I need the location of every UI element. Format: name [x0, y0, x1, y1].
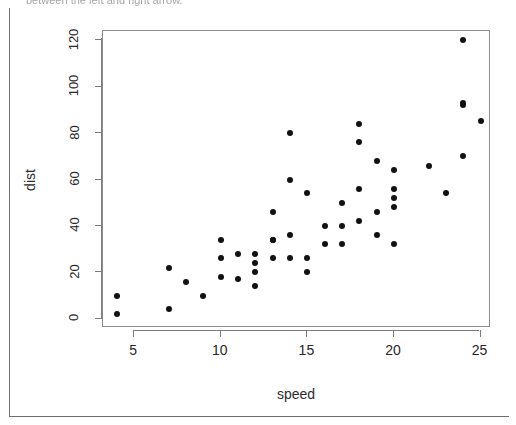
data-point: [391, 167, 397, 173]
x-axis-tick: [306, 330, 307, 337]
data-point: [114, 311, 120, 317]
data-point: [235, 251, 241, 257]
data-point: [287, 177, 293, 183]
data-point: [270, 237, 276, 243]
y-axis-tick-label: 80: [56, 125, 92, 139]
data-point: [478, 118, 484, 124]
data-point: [166, 265, 172, 271]
y-axis-tick: [95, 225, 101, 226]
x-axis-tick: [393, 330, 394, 337]
data-point: [166, 306, 172, 312]
data-point: [270, 255, 276, 261]
data-point: [218, 237, 224, 243]
y-axis-title-label: dist: [22, 169, 38, 191]
y-axis-tick-label: 0: [56, 311, 92, 325]
y-axis-tick: [95, 271, 101, 272]
x-axis-tick: [133, 330, 134, 337]
y-axis-tick: [95, 132, 101, 133]
data-point: [183, 279, 189, 285]
y-axis-tick-label: 60: [56, 172, 92, 186]
y-axis-tick-label: 20: [56, 264, 92, 278]
data-point: [252, 269, 258, 275]
y-axis-tick-label: 120: [56, 32, 92, 46]
data-point: [322, 223, 328, 229]
y-axis-tick: [95, 39, 101, 40]
data-point: [460, 153, 466, 159]
y-axis-tick: [95, 179, 101, 180]
data-point: [460, 37, 466, 43]
y-axis-tick: [95, 318, 101, 319]
data-point: [391, 195, 397, 201]
x-axis-tick: [480, 330, 481, 337]
data-point: [218, 274, 224, 280]
data-point: [356, 186, 362, 192]
data-point: [200, 293, 206, 299]
data-point: [252, 251, 258, 257]
data-point: [374, 209, 380, 215]
data-point: [356, 139, 362, 145]
data-point: [304, 269, 310, 275]
data-point: [339, 241, 345, 247]
x-axis-tick-label: 25: [460, 342, 500, 358]
x-axis-title: speed: [102, 386, 490, 402]
x-axis-tick-label: 15: [286, 342, 326, 358]
x-axis-tick-label: 20: [373, 342, 413, 358]
data-point: [252, 283, 258, 289]
data-point: [426, 163, 432, 169]
data-point: [114, 293, 120, 299]
data-point: [391, 186, 397, 192]
y-axis-tick-label: 100: [56, 79, 92, 93]
data-point: [287, 255, 293, 261]
data-point: [304, 255, 310, 261]
figure-page: between the left and right arrow. dist 0…: [0, 0, 516, 425]
scatter-plot-area: [102, 30, 490, 327]
data-point: [356, 218, 362, 224]
x-axis-tick-label: 5: [113, 342, 153, 358]
figure-caption-cropped: between the left and right arrow.: [26, 0, 326, 6]
data-point: [235, 276, 241, 282]
data-point: [443, 190, 449, 196]
x-axis-tick: [220, 330, 221, 337]
x-axis-tick-label: 10: [200, 342, 240, 358]
y-axis-tick: [95, 86, 101, 87]
data-point: [322, 241, 328, 247]
data-point: [339, 223, 345, 229]
data-point: [374, 158, 380, 164]
data-point: [391, 241, 397, 247]
data-point: [252, 260, 258, 266]
data-point: [356, 121, 362, 127]
data-point: [391, 204, 397, 210]
data-point: [304, 190, 310, 196]
data-point: [374, 232, 380, 238]
data-point: [287, 232, 293, 238]
data-point: [339, 200, 345, 206]
data-point: [218, 255, 224, 261]
data-point: [270, 209, 276, 215]
data-point: [287, 130, 293, 136]
y-axis-title: dist: [20, 150, 40, 210]
y-axis-tick-label: 40: [56, 218, 92, 232]
